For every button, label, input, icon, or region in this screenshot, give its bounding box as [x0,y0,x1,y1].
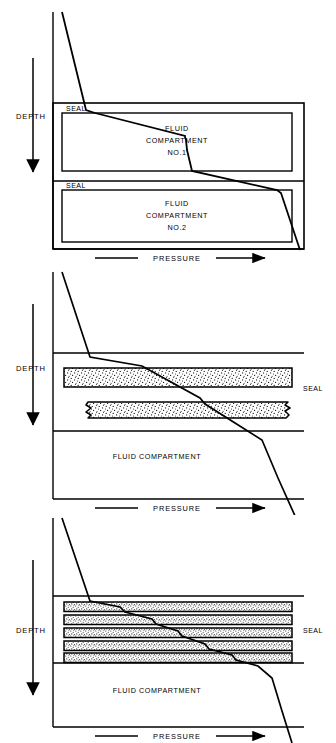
seal-band-5 [64,653,292,663]
depth-label: DEPTH [16,112,46,121]
seal-band-2 [64,615,292,625]
compartment-2-line-3: NO.2 [167,223,186,232]
panel-2-drawing: DEPTH SEAL FLUID COMPARTMENT PRESSURE [0,265,336,515]
panel-two-compartments: DEPTH SEAL SEAL FLUID COMPARTMENT NO.1 F… [0,0,336,265]
panel-1-drawing: DEPTH SEAL SEAL FLUID COMPARTMENT NO.1 F… [0,0,336,265]
seal-band-4 [64,641,292,651]
compartment-1-line-2: COMPARTMENT [146,136,208,145]
depth-label: DEPTH [16,626,46,635]
seal-band-1 [64,368,292,387]
fluid-compartment-label: FLUID COMPARTMENT [113,686,202,695]
seal-label: SEAL [303,627,323,634]
pressure-label: PRESSURE [153,254,201,263]
seal-label-1: SEAL [66,105,86,112]
pressure-depth-curve [62,272,300,515]
seal-label: SEAL [303,385,323,392]
compartment-2-line-2: COMPARTMENT [146,211,208,220]
compartment-1-line-3: NO.1 [167,148,186,157]
panel-3-drawing: DEPTH SEAL FLUID COMPARTMENT PRESSURE [0,515,336,743]
seal-band-2-torn [86,402,290,418]
panel-five-seal-bands: DEPTH SEAL FLUID COMPARTMENT PRESSURE [0,515,336,743]
seal-band-3 [64,628,292,638]
depth-label: DEPTH [16,364,46,373]
pressure-label: PRESSURE [153,732,201,741]
seal-label-2: SEAL [66,182,86,189]
fluid-compartment-label: FLUID COMPARTMENT [113,452,202,461]
panel-two-seal-bands: DEPTH SEAL FLUID COMPARTMENT PRESSURE [0,265,336,515]
compartment-2-line-1: FLUID [165,199,189,208]
pressure-label: PRESSURE [153,504,201,513]
